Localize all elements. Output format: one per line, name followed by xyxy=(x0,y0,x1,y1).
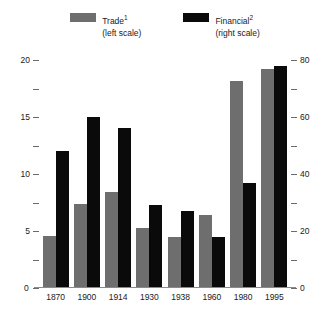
bar-financial xyxy=(87,117,100,288)
legend-trade-text: Trade1 (left scale) xyxy=(102,10,141,40)
left-axis-tick-label: 10 xyxy=(21,170,30,179)
bar-group xyxy=(259,60,290,288)
bar-trade xyxy=(74,204,87,288)
legend-item-trade: Trade1 (left scale) xyxy=(70,10,141,40)
bar-financial xyxy=(56,151,69,288)
right-axis-tick xyxy=(291,117,297,118)
legend-swatch-financial xyxy=(183,13,209,22)
right-axis-zero-label: 0 xyxy=(300,283,305,293)
left-axis-tick-label: 5 xyxy=(25,227,30,236)
bar-trade xyxy=(168,237,181,288)
bar-trade xyxy=(199,215,212,288)
legend-item-financial: Financial2 (right scale) xyxy=(183,10,259,40)
left-axis-minor-tick xyxy=(33,89,39,90)
x-axis-label: 1980 xyxy=(228,292,259,302)
left-axis-tick-label: 15 xyxy=(21,113,30,122)
legend-label-trade: Trade1 xyxy=(102,16,128,26)
right-axis-tick-label: 60 xyxy=(300,113,309,122)
bar-financial xyxy=(243,183,256,288)
plot-area xyxy=(40,60,290,288)
x-axis-label: 1914 xyxy=(103,292,134,302)
left-axis-minor-tick xyxy=(33,203,39,204)
right-axis-minor-tick xyxy=(291,203,297,204)
bar-group xyxy=(71,60,102,288)
bar-trade xyxy=(105,192,118,288)
x-axis-baseline xyxy=(34,287,296,288)
legend-footnote-trade: 1 xyxy=(124,14,128,21)
right-axis-tick-label: 20 xyxy=(300,227,309,236)
left-axis-tick xyxy=(33,174,39,175)
bar-group xyxy=(165,60,196,288)
right-axis-minor-tick xyxy=(291,89,297,90)
left-axis-minor-tick xyxy=(33,146,39,147)
right-axis-tick xyxy=(291,231,297,232)
bar-financial xyxy=(118,128,131,288)
right-axis-minor-tick xyxy=(291,146,297,147)
bar-group xyxy=(40,60,71,288)
legend-footnote-financial: 2 xyxy=(249,14,253,21)
right-axis-tick-label: 40 xyxy=(300,170,309,179)
left-axis-tick-label: 20 xyxy=(21,56,30,65)
bar-groups xyxy=(40,60,290,288)
left-axis-minor-tick xyxy=(33,260,39,261)
left-axis-tick xyxy=(33,288,39,289)
bar-group xyxy=(228,60,259,288)
bar-trade xyxy=(230,81,243,288)
x-axis-label: 1938 xyxy=(165,292,196,302)
bar-group xyxy=(103,60,134,288)
x-axis-label: 1995 xyxy=(259,292,290,302)
right-axis-tick xyxy=(291,60,297,61)
right-axis-tick-label: 80 xyxy=(300,56,309,65)
bar-financial xyxy=(212,237,225,288)
chart-legend: Trade1 (left scale) Financial2 (right sc… xyxy=(0,10,330,40)
legend-scale-trade: (left scale) xyxy=(102,28,141,40)
left-axis-tick xyxy=(33,117,39,118)
bar-trade xyxy=(136,228,149,288)
right-axis-tick xyxy=(291,174,297,175)
x-axis-label: 1900 xyxy=(71,292,102,302)
bar-trade xyxy=(261,69,274,288)
legend-financial-text: Financial2 (right scale) xyxy=(215,10,259,40)
legend-swatch-trade xyxy=(70,13,96,22)
x-axis-label: 1930 xyxy=(134,292,165,302)
legend-scale-financial: (right scale) xyxy=(215,28,259,40)
bar-chart: Trade1 (left scale) Financial2 (right sc… xyxy=(0,0,330,329)
bar-group xyxy=(196,60,227,288)
bar-financial xyxy=(181,211,194,288)
bar-financial xyxy=(274,66,287,288)
x-axis-label: 1870 xyxy=(40,292,71,302)
left-axis-tick xyxy=(33,60,39,61)
left-axis-zero-label: 0 xyxy=(24,283,29,293)
right-axis-minor-tick xyxy=(291,260,297,261)
left-axis-tick xyxy=(33,231,39,232)
x-axis-label: 1960 xyxy=(196,292,227,302)
right-axis-tick xyxy=(291,288,297,289)
bar-financial xyxy=(149,205,162,288)
bar-trade xyxy=(43,236,56,288)
x-axis-labels: 18701900191419301938196019801995 xyxy=(40,292,290,302)
bar-group xyxy=(134,60,165,288)
legend-label-financial: Financial2 xyxy=(215,16,253,26)
